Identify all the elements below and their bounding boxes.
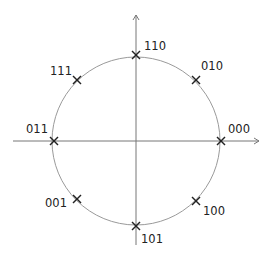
constellation-diagram: 000010110111011001101100 — [0, 0, 279, 257]
point-label: 011 — [26, 122, 48, 136]
constellation-point: 101 — [132, 222, 163, 246]
constellation-point: 000 — [217, 122, 250, 145]
point-label: 010 — [201, 59, 223, 73]
point-label: 111 — [50, 64, 72, 78]
constellation-points: 000010110111011001101100 — [26, 39, 250, 246]
constellation-point: 010 — [192, 59, 223, 84]
point-label: 001 — [45, 196, 67, 210]
point-label: 110 — [144, 39, 166, 53]
constellation-point: 111 — [50, 64, 81, 84]
point-label: 100 — [203, 204, 225, 218]
point-label: 000 — [228, 122, 250, 136]
constellation-point: 001 — [45, 195, 81, 210]
constellation-point: 100 — [192, 197, 225, 218]
constellation-point: 110 — [132, 39, 166, 59]
point-label: 101 — [141, 232, 163, 246]
